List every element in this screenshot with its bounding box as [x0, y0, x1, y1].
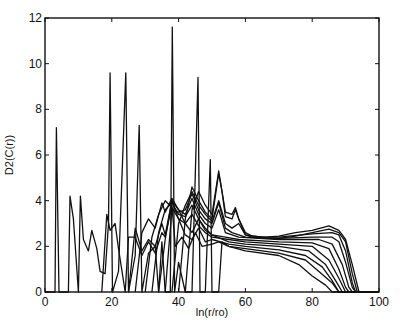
y-tick-label: 2 — [35, 239, 42, 253]
y-tick-label: 4 — [35, 194, 42, 208]
x-tick-label: 60 — [239, 295, 253, 309]
y-tick-label: 12 — [29, 11, 43, 25]
y-tick-labels: 024681012 — [29, 11, 43, 299]
x-tick-label: 40 — [172, 295, 186, 309]
series-layer — [45, 27, 379, 292]
x-axis-label: ln(r/ro) — [196, 306, 228, 318]
y-tick-label: 0 — [35, 285, 42, 299]
y-axis-label: D2(C(r)) — [3, 135, 15, 175]
y-tick-label: 8 — [35, 102, 42, 116]
x-tick-label: 100 — [369, 295, 389, 309]
x-tick-label: 20 — [105, 295, 119, 309]
y-tick-label: 6 — [35, 148, 42, 162]
y-tick-label: 10 — [29, 57, 43, 71]
x-tick-label: 0 — [42, 295, 49, 309]
x-tick-label: 80 — [306, 295, 320, 309]
series-line-1 — [45, 27, 379, 292]
line-chart: 020406080100 024681012 ln(r/ro) D2(C(r)) — [0, 0, 400, 329]
